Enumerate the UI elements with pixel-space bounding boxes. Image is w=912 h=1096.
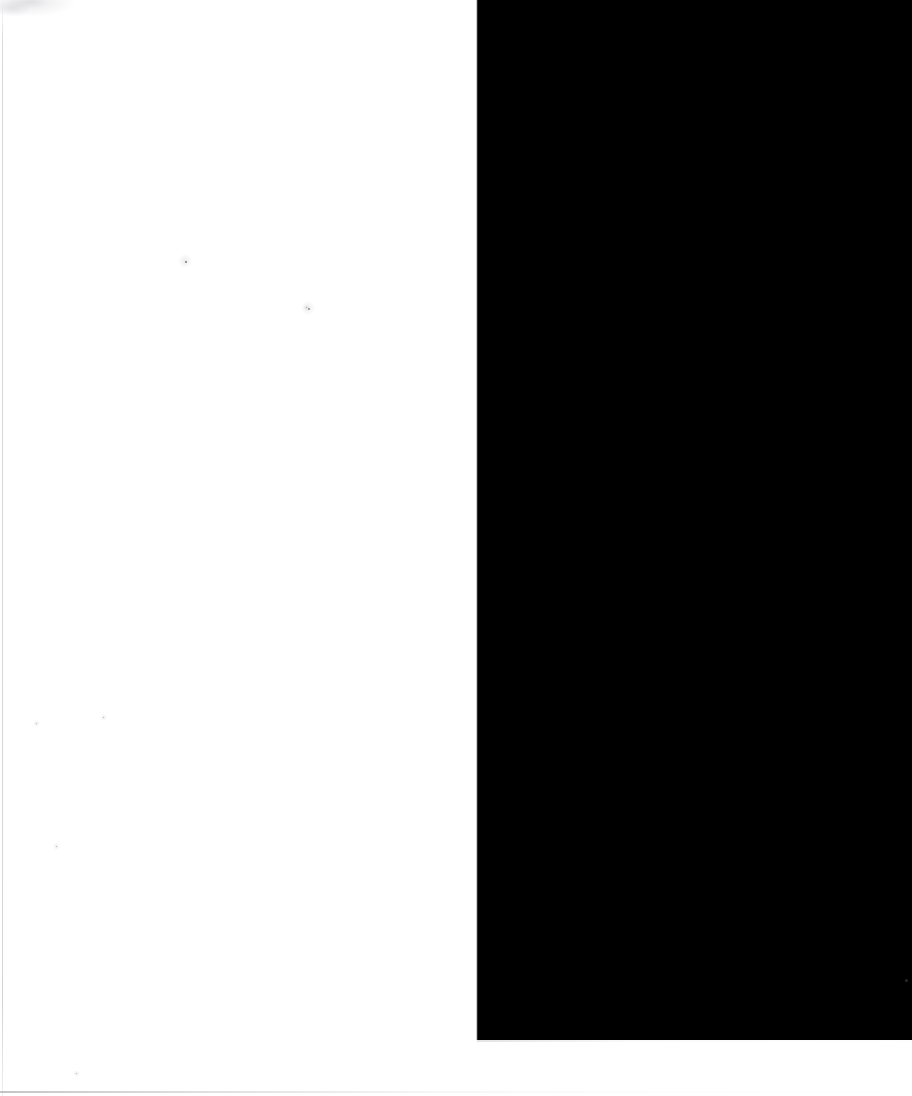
speck-c — [308, 308, 310, 310]
paper-area — [0, 0, 477, 1096]
speck-a — [185, 261, 187, 263]
scanned-page — [0, 0, 912, 1096]
black-void-left-seam — [476, 0, 478, 1040]
paper-left-edge-shadow — [2, 0, 3, 1096]
speck-d — [103, 717, 104, 718]
speck-e — [56, 846, 57, 847]
speck-g — [76, 1073, 77, 1074]
top-left-smudge-artifact — [0, 0, 78, 34]
speck-void — [905, 979, 908, 982]
speck-f — [36, 723, 37, 724]
black-void-region — [477, 0, 912, 1040]
black-void-bottom-seam — [477, 1040, 912, 1042]
paper-bottom-edge-shadow — [0, 1091, 912, 1093]
